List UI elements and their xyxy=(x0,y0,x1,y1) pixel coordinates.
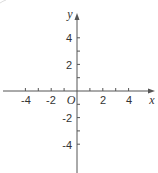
x-tick-label: -2 xyxy=(46,94,56,106)
y-tick-label: -2 xyxy=(62,112,72,124)
coordinate-plane: -4 -2 2 4 4 2 -2 -4 O x y xyxy=(0,0,158,173)
y-axis-label: y xyxy=(66,7,73,21)
origin-label: O xyxy=(67,93,76,107)
x-tick-label: 4 xyxy=(126,94,132,106)
y-axis-arrow-icon xyxy=(75,13,80,20)
x-axis-label: x xyxy=(148,93,155,107)
y-tick-label: 4 xyxy=(66,32,72,44)
y-tick-label: -4 xyxy=(62,139,72,151)
x-tick-label: 2 xyxy=(100,94,106,106)
y-tick-label: 2 xyxy=(66,59,72,71)
x-tick-label: -4 xyxy=(21,94,31,106)
cropped-curve-fragment xyxy=(0,0,6,3)
